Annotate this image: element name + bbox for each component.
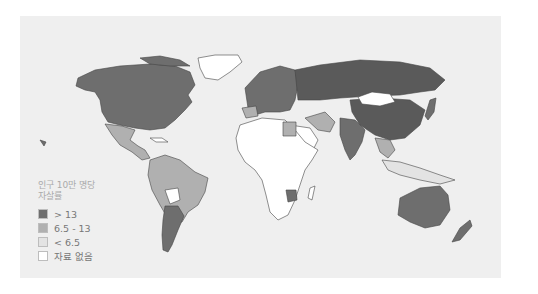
legend-title: 인구 10만 명당 자살률 xyxy=(38,180,95,202)
legend-label: > 13 xyxy=(54,209,77,220)
region-north-america xyxy=(76,64,195,130)
legend-swatch-medium xyxy=(38,223,48,233)
legend-swatch-low xyxy=(38,237,48,247)
legend-item-no-data: 자료 없음 xyxy=(38,249,95,263)
legend-label: 자료 없음 xyxy=(54,249,93,263)
legend-item-medium: 6.5 - 13 xyxy=(38,221,95,235)
legend-item-low: < 6.5 xyxy=(38,235,95,249)
legend-item-high: > 13 xyxy=(38,207,95,221)
region-southeast-asia xyxy=(375,138,395,158)
region-australia xyxy=(398,186,450,228)
region-egypt xyxy=(283,122,296,136)
region-zimbabwe xyxy=(286,190,297,202)
legend-swatch-high xyxy=(38,209,48,219)
legend-title-line-2: 자살률 xyxy=(38,191,95,202)
region-argentina xyxy=(162,206,184,252)
region-new-zealand xyxy=(452,220,472,242)
map-legend: 인구 10만 명당 자살률 > 13 6.5 - 13 < 6.5 자료 없음 xyxy=(38,180,95,263)
legend-swatch-no-data xyxy=(38,251,48,261)
legend-label: < 6.5 xyxy=(54,237,80,248)
region-greenland xyxy=(198,55,242,80)
legend-label: 6.5 - 13 xyxy=(54,223,91,234)
legend-title-line-1: 인구 10만 명당 xyxy=(38,180,95,191)
